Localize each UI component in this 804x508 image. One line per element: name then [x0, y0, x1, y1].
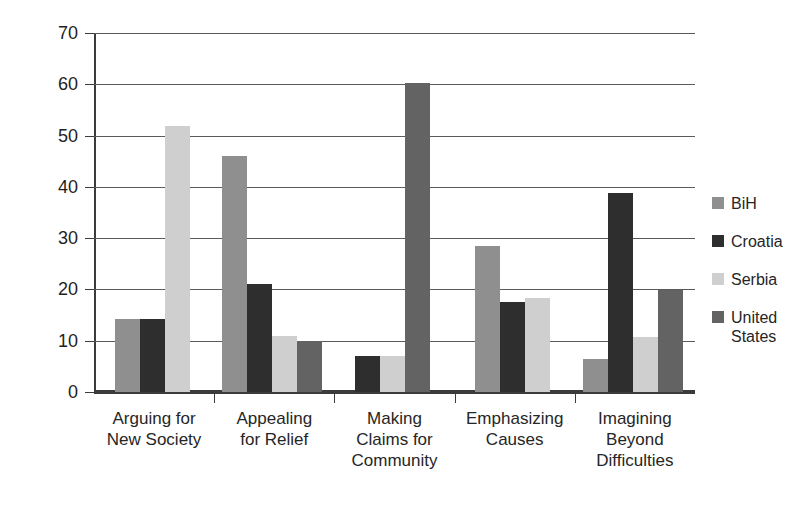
- y-tick-mark-60: [85, 84, 94, 85]
- bar-serbia-group-5[interactable]: [633, 337, 658, 392]
- legend-item-croatia[interactable]: Croatia: [712, 232, 804, 251]
- legend-swatch-icon: [712, 235, 724, 247]
- bar-croatia-group-1[interactable]: [140, 319, 165, 392]
- y-tick-mark-70: [85, 33, 94, 34]
- x-tick-mark-1: [214, 392, 215, 403]
- category-label-line: Arguing for: [86, 408, 222, 429]
- bar-group-2: [214, 33, 334, 392]
- category-label-line: Making: [326, 408, 462, 429]
- chart-legend: BiHCroatiaSerbiaUnitedStates: [712, 194, 804, 365]
- category-label-3: MakingClaims forCommunity: [326, 408, 462, 471]
- bar-croatia-group-4[interactable]: [500, 302, 525, 392]
- y-tick-mark-0: [85, 392, 94, 393]
- x-tick-mark-3: [455, 392, 456, 403]
- legend-swatch-icon: [712, 273, 724, 285]
- y-tick-label-70: 70: [26, 23, 78, 44]
- category-label-line: Emphasizing: [447, 408, 583, 429]
- bar-united-states-group-5[interactable]: [658, 290, 683, 392]
- legend-label-line: United: [731, 308, 777, 327]
- bar-group-4: [455, 33, 575, 392]
- bar-bih-group-4[interactable]: [475, 246, 500, 392]
- bar-serbia-group-1[interactable]: [165, 126, 190, 392]
- bar-bih-group-1[interactable]: [115, 319, 140, 392]
- legend-label-line: BiH: [731, 194, 757, 213]
- legend-item-united-states[interactable]: UnitedStates: [712, 308, 804, 346]
- bar-serbia-group-3[interactable]: [380, 356, 405, 392]
- gridline-0: [94, 392, 695, 394]
- y-tick-mark-10: [85, 341, 94, 342]
- bar-united-states-group-2[interactable]: [297, 341, 322, 392]
- category-label-2: Appealingfor Relief: [206, 408, 342, 450]
- bar-chart-figure: Percentage 010203040506070 Arguing forNe…: [0, 0, 804, 508]
- bar-bih-group-5[interactable]: [583, 359, 608, 392]
- bar-croatia-group-3[interactable]: [355, 356, 380, 392]
- plot-area: [94, 33, 695, 392]
- category-label-line: Difficulties: [567, 450, 703, 471]
- category-label-line: Claims for: [326, 429, 462, 450]
- category-label-line: Causes: [447, 429, 583, 450]
- y-tick-label-60: 60: [26, 74, 78, 95]
- legend-item-bih[interactable]: BiH: [712, 194, 804, 213]
- legend-item-serbia[interactable]: Serbia: [712, 270, 804, 289]
- legend-swatch-icon: [712, 311, 724, 323]
- category-label-line: Appealing: [206, 408, 342, 429]
- y-tick-mark-20: [85, 289, 94, 290]
- category-label-line: Community: [326, 450, 462, 471]
- y-tick-label-0: 0: [26, 382, 78, 403]
- y-tick-mark-30: [85, 238, 94, 239]
- y-tick-label-20: 20: [26, 279, 78, 300]
- y-tick-label-30: 30: [26, 228, 78, 249]
- x-tick-mark-2: [334, 392, 335, 403]
- bar-croatia-group-2[interactable]: [247, 284, 272, 392]
- y-tick-label-10: 10: [26, 330, 78, 351]
- category-label-5: ImaginingBeyondDifficulties: [567, 408, 703, 471]
- bar-serbia-group-2[interactable]: [272, 336, 297, 392]
- legend-label: Croatia: [731, 232, 783, 251]
- category-label-line: Beyond: [567, 429, 703, 450]
- legend-label: Serbia: [731, 270, 777, 289]
- category-label-line: for Relief: [206, 429, 342, 450]
- y-tick-label-40: 40: [26, 176, 78, 197]
- x-tick-mark-4: [575, 392, 576, 403]
- category-label-line: New Society: [86, 429, 222, 450]
- bar-group-3: [334, 33, 454, 392]
- y-tick-mark-40: [85, 187, 94, 188]
- legend-label-line: Serbia: [731, 270, 777, 289]
- legend-label: BiH: [731, 194, 757, 213]
- legend-label-line: Croatia: [731, 232, 783, 251]
- y-tick-mark-50: [85, 136, 94, 137]
- bar-serbia-group-4[interactable]: [525, 298, 550, 392]
- bar-group-1: [94, 33, 214, 392]
- bar-united-states-group-3[interactable]: [405, 83, 430, 392]
- legend-label-line: States: [731, 327, 777, 346]
- bar-bih-group-2[interactable]: [222, 156, 247, 392]
- category-label-1: Arguing forNew Society: [86, 408, 222, 450]
- bar-croatia-group-5[interactable]: [608, 193, 633, 392]
- category-label-line: Imagining: [567, 408, 703, 429]
- y-tick-label-50: 50: [26, 125, 78, 146]
- bar-group-5: [575, 33, 695, 392]
- category-label-4: EmphasizingCauses: [447, 408, 583, 450]
- legend-swatch-icon: [712, 197, 724, 209]
- legend-label: UnitedStates: [731, 308, 777, 346]
